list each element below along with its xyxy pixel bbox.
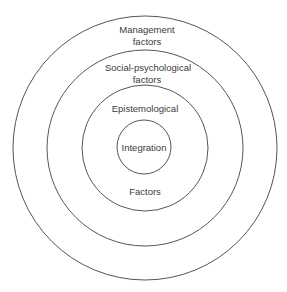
label-management-line2: factors [133, 36, 162, 47]
concentric-diagram: Management factors Social-psychological … [0, 0, 287, 292]
label-factors: Factors [129, 186, 161, 197]
label-social-line2: factors [133, 74, 162, 85]
label-integration: Integration [122, 142, 167, 153]
label-management-line1: Management [119, 24, 175, 35]
label-social-line1: Social-psychological [105, 62, 191, 73]
label-epistemological: Epistemological [112, 103, 179, 114]
